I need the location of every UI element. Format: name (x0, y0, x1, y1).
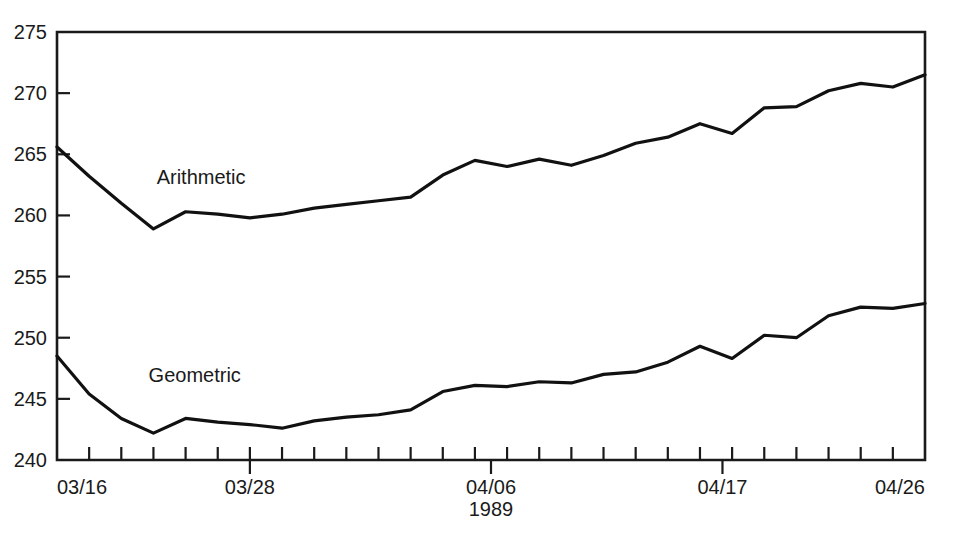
y-tick-label: 245 (14, 388, 47, 410)
y-tick-label: 250 (14, 327, 47, 349)
series-label-arithmetic: Arithmetic (157, 166, 246, 188)
line-chart: 240245250255260265270275 03/1603/2804/06… (0, 0, 963, 541)
series-label-geometric: Geometric (149, 364, 241, 386)
y-tick-label: 255 (14, 266, 47, 288)
y-tick-label: 265 (14, 143, 47, 165)
y-tick-label: 240 (14, 449, 47, 471)
x-tick-label: 04/26 (875, 476, 925, 498)
plot-border (57, 32, 925, 460)
series-line-arithmetic (57, 75, 925, 229)
x-tick-label: 04/17 (697, 476, 747, 498)
x-axis: 03/1603/2804/0604/1704/26 (57, 447, 925, 498)
x-tick-label: 03/28 (225, 476, 275, 498)
y-tick-label: 260 (14, 204, 47, 226)
x-tick-label: 03/16 (57, 476, 107, 498)
x-tick-label: 04/06 (466, 476, 516, 498)
y-tick-label: 270 (14, 82, 47, 104)
y-tick-label: 275 (14, 21, 47, 43)
y-axis: 240245250255260265270275 (14, 21, 70, 471)
plot-frame (57, 32, 925, 460)
x-axis-title: 1989 (469, 498, 514, 520)
chart-container: 240245250255260265270275 03/1603/2804/06… (0, 0, 963, 541)
series-annotations: ArithmeticGeometric (149, 166, 246, 386)
